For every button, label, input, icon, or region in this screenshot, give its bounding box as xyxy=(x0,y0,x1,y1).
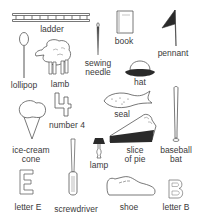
label-lollipop: lollipop xyxy=(7,81,41,90)
slice-of-pie-icon xyxy=(108,112,160,144)
letter-b-icon xyxy=(168,179,184,199)
label-pennant: pennant xyxy=(155,49,191,58)
label-letter-e: letter E xyxy=(10,203,46,212)
lollipop-icon xyxy=(18,32,30,80)
label-lamp: lamp xyxy=(86,161,112,170)
label-baseball-bat-line2: bat xyxy=(156,155,196,164)
book-icon xyxy=(116,10,134,35)
pennant-icon xyxy=(160,8,180,48)
letter-e-icon xyxy=(19,169,35,195)
seal-icon xyxy=(102,89,154,111)
label-number-4: number 4 xyxy=(45,121,89,130)
label-lamb: lamb xyxy=(48,80,72,89)
label-book: book xyxy=(111,37,137,46)
lamb-icon xyxy=(33,38,73,78)
baseball-bat-icon xyxy=(171,86,181,144)
hat-icon xyxy=(124,52,156,80)
label-letter-b: letter B xyxy=(156,203,196,212)
screwdriver-icon xyxy=(66,138,80,200)
label-slice-of-pie-line2: of pie xyxy=(120,155,150,164)
number-4-icon xyxy=(51,92,73,118)
label-hat: hat xyxy=(128,78,152,87)
lamp-icon xyxy=(92,137,106,159)
sewing-needle-icon xyxy=(95,22,101,56)
shoe-icon xyxy=(105,175,157,197)
label-ladder: ladder xyxy=(34,25,70,34)
ice-cream-cone-icon xyxy=(16,99,48,141)
ladder-icon xyxy=(12,13,90,23)
label-sewing-needle-line2: needle xyxy=(80,68,116,77)
label-ice-cream-cone-line2: cone xyxy=(8,155,54,164)
label-screwdriver: screwdriver xyxy=(52,205,100,214)
label-shoe: shoe xyxy=(116,203,142,212)
